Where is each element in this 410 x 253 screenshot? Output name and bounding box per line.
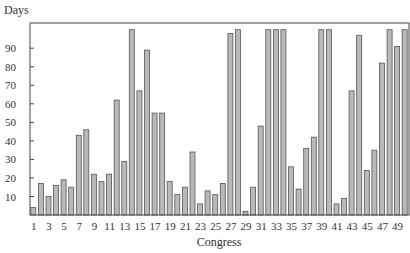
bars (31, 30, 407, 215)
bar-chart: Days 102030405060708090 1357911131517192… (0, 0, 410, 253)
x-tick-label: 29 (241, 220, 253, 232)
bar-congress-20 (175, 195, 180, 215)
y-tick-label: 10 (5, 191, 17, 203)
bar-congress-17 (152, 113, 157, 215)
x-tick-label: 5 (61, 220, 67, 232)
bar-congress-21 (182, 187, 187, 215)
bar-congress-49 (395, 46, 400, 215)
bar-congress-2 (38, 184, 43, 216)
bar-congress-13 (122, 161, 127, 215)
x-tick-label: 13 (119, 220, 131, 232)
x-tick-label: 7 (77, 220, 83, 232)
bar-congress-22 (190, 152, 195, 215)
x-tick-label: 21 (180, 220, 191, 232)
bar-congress-15 (137, 91, 142, 215)
bar-congress-11 (107, 174, 112, 215)
bar-congress-40 (326, 30, 331, 215)
x-tick-label: 27 (225, 220, 237, 232)
bar-congress-44 (357, 35, 362, 215)
bar-congress-25 (213, 195, 218, 215)
bar-congress-38 (311, 137, 316, 215)
bar-congress-30 (251, 187, 256, 215)
bar-congress-50 (402, 30, 407, 215)
bar-congress-7 (76, 135, 81, 215)
y-tick-label: 80 (5, 61, 17, 73)
y-tick-label: 30 (5, 153, 17, 165)
x-tick-label: 23 (195, 220, 207, 232)
bar-congress-43 (349, 91, 354, 215)
bar-congress-35 (289, 167, 294, 215)
y-tick-label: 50 (5, 116, 17, 128)
bar-congress-47 (380, 63, 385, 215)
x-tick-label: 43 (347, 220, 359, 232)
y-axis-title: Days (4, 3, 29, 17)
bar-congress-48 (387, 30, 392, 215)
y-tick-label: 60 (5, 98, 17, 110)
bar-congress-31 (258, 126, 263, 215)
bar-congress-9 (91, 174, 96, 215)
x-tick-label: 3 (46, 220, 52, 232)
x-tick-label: 35 (286, 220, 298, 232)
bar-congress-41 (334, 204, 339, 215)
bar-congress-4 (54, 185, 59, 215)
bar-congress-24 (205, 191, 210, 215)
y-tick-label: 90 (5, 42, 17, 54)
bar-congress-29 (243, 211, 248, 215)
y-tick-label: 40 (5, 135, 17, 147)
bar-congress-3 (46, 197, 51, 216)
bar-congress-32 (266, 30, 271, 215)
x-tick-label: 45 (362, 220, 374, 232)
x-tick-label: 19 (165, 220, 177, 232)
x-tick-label: 47 (377, 220, 389, 232)
x-tick-label: 17 (150, 220, 162, 232)
bar-congress-1 (31, 208, 36, 215)
x-tick-label: 49 (392, 220, 404, 232)
x-tick-label: 39 (316, 220, 328, 232)
x-tick-label: 33 (271, 220, 283, 232)
bar-congress-5 (61, 180, 66, 215)
bar-congress-26 (220, 184, 225, 216)
bar-congress-14 (129, 30, 134, 215)
bar-congress-42 (342, 198, 347, 215)
bar-congress-6 (69, 187, 74, 215)
x-tick-label: 25 (210, 220, 222, 232)
bar-congress-19 (167, 182, 172, 215)
bar-congress-46 (372, 150, 377, 215)
y-tick-label: 20 (5, 172, 17, 184)
x-tick-label: 37 (301, 220, 313, 232)
bar-congress-18 (160, 113, 165, 215)
bar-congress-34 (281, 30, 286, 215)
x-axis-title: Congress (197, 235, 242, 249)
bar-congress-33 (273, 30, 278, 215)
bar-congress-39 (319, 30, 324, 215)
y-tick-label: 70 (5, 79, 17, 91)
x-axis-tick-labels: 1357911131517192123252729313335373941434… (31, 220, 404, 232)
bar-congress-23 (198, 204, 203, 215)
bar-congress-12 (114, 100, 119, 215)
bar-congress-16 (145, 50, 150, 215)
bar-congress-45 (364, 171, 369, 216)
bar-congress-8 (84, 130, 89, 215)
x-tick-label: 1 (31, 220, 37, 232)
x-tick-label: 31 (256, 220, 267, 232)
bar-congress-36 (296, 189, 301, 215)
bar-congress-27 (228, 33, 233, 215)
x-tick-label: 41 (332, 220, 343, 232)
x-tick-label: 11 (104, 220, 115, 232)
bar-congress-10 (99, 182, 104, 215)
x-tick-label: 9 (92, 220, 98, 232)
bar-congress-28 (235, 30, 240, 215)
x-tick-label: 15 (134, 220, 146, 232)
bar-congress-37 (304, 148, 309, 215)
